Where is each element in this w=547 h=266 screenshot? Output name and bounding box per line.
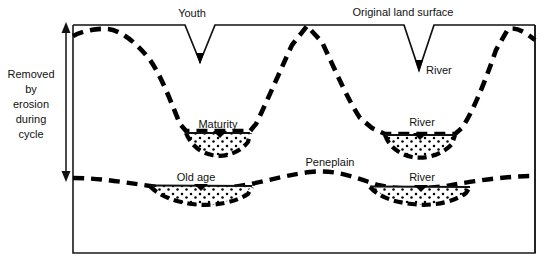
maturity-valley-left xyxy=(182,131,256,161)
side-caption: Removed by erosion during cycle xyxy=(7,68,54,140)
side-caption-line-4: during xyxy=(16,113,47,125)
label-peneplain: Peneplain xyxy=(306,156,355,168)
river-marker-youth-right xyxy=(415,60,423,72)
erosion-depth-arrow xyxy=(62,22,71,182)
label-river-maturity-right: River xyxy=(409,116,435,128)
label-youth: Youth xyxy=(178,7,206,19)
erosion-cycle-diagram: Removed by erosion during cycle xyxy=(0,0,547,266)
side-caption-line-1: Removed xyxy=(7,68,54,80)
side-caption-line-2: by xyxy=(25,83,37,95)
label-maturity: Maturity xyxy=(198,118,238,130)
old-age-valley-left xyxy=(146,184,256,210)
label-river-old-age-right: River xyxy=(409,171,435,183)
old-age-valley-right xyxy=(366,185,474,211)
side-caption-line-5: cycle xyxy=(18,128,43,140)
maturity-valley-right xyxy=(381,133,461,163)
label-old-age: Old age xyxy=(177,171,216,183)
diagram-canvas: Removed by erosion during cycle xyxy=(0,0,547,266)
side-caption-line-3: erosion xyxy=(13,98,49,110)
label-river-youth-right: River xyxy=(426,64,452,76)
label-original-land-surface: Original land surface xyxy=(353,6,454,18)
diagram-frame xyxy=(73,25,535,253)
river-marker-youth-left xyxy=(196,53,204,64)
maturity-erosion-surface xyxy=(73,26,535,134)
